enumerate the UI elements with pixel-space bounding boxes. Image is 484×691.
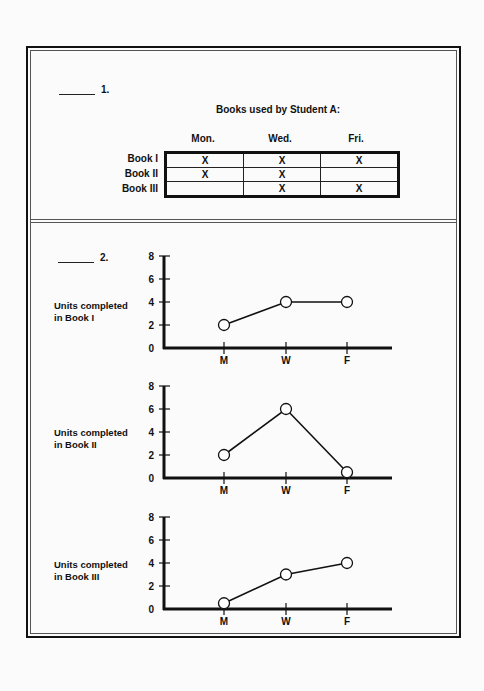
x-tick-label: W [281,355,291,366]
column-header-wed: Wed. [242,133,318,144]
ylabel-line: in Book I [54,312,128,324]
data-point-marker [342,297,353,308]
data-point-marker [219,598,230,609]
ylabel-line: in Book III [54,571,128,583]
ylabel-line: Units completed [54,559,128,571]
table-cell: X [321,182,399,197]
y-tick-label: 8 [148,512,154,523]
x-tick-label: F [344,355,350,366]
y-tick-label: 4 [148,297,154,308]
table-cell: X [166,168,244,182]
row-header-book-1: Book I [98,153,158,164]
x-tick-label: W [281,485,291,496]
table-row: X X [166,182,399,197]
line-chart-book-3: 02468MWF [140,507,400,627]
table-cell: X [321,153,399,168]
line-chart-book-1: 02468MWF [140,246,400,366]
y-tick-label: 4 [148,427,154,438]
y-tick-label: 2 [148,450,154,461]
x-tick-label: M [220,616,228,627]
y-tick-label: 8 [148,381,154,392]
table-cell [321,168,399,182]
x-tick-label: F [344,616,350,627]
data-point-marker [342,558,353,569]
table-cell: X [244,168,321,182]
chart-1-ylabel: Units completed in Book I [54,300,128,324]
data-point-marker [342,467,353,478]
y-tick-label: 8 [148,251,154,262]
ylabel-line: Units completed [54,300,128,312]
chart-2-ylabel: Units completed in Book II [54,427,128,451]
x-tick-label: W [281,616,291,627]
table-row: X X [166,168,399,182]
x-tick-label: M [220,485,228,496]
x-tick-label: F [344,485,350,496]
y-tick-label: 2 [148,320,154,331]
data-point-marker [219,320,230,331]
data-point-marker [219,450,230,461]
table-cell: X [244,182,321,197]
data-point-marker [281,404,292,415]
table-row: X X X [166,153,399,168]
y-tick-label: 4 [148,558,154,569]
answer-blank-1[interactable] [59,94,95,95]
answer-blank-2[interactable] [58,262,94,263]
column-header-mon: Mon. [165,133,241,144]
table-cell: X [244,153,321,168]
row-header-book-2: Book II [98,168,158,179]
table-cell [166,182,244,197]
section-divider [30,219,457,223]
table-cell: X [166,153,244,168]
y-tick-label: 6 [148,535,154,546]
x-tick-label: M [220,355,228,366]
ylabel-line: in Book II [54,439,128,451]
line-chart-book-2: 02468MWF [140,376,400,496]
y-tick-label: 2 [148,581,154,592]
y-tick-label: 0 [148,473,154,484]
y-tick-label: 6 [148,274,154,285]
y-tick-label: 6 [148,404,154,415]
chart-3-ylabel: Units completed in Book III [54,559,128,583]
ylabel-line: Units completed [54,427,128,439]
column-header-fri: Fri. [318,133,394,144]
book-usage-table: X X X X X X X [164,151,400,198]
data-line [224,409,347,472]
question-number-1: 1. [101,84,109,95]
y-tick-label: 0 [148,343,154,354]
y-tick-label: 0 [148,604,154,615]
table-title: Books used by Student A: [216,104,340,115]
row-header-book-3: Book III [98,183,158,194]
data-point-marker [281,569,292,580]
question-number-2: 2. [100,252,108,263]
data-point-marker [281,297,292,308]
